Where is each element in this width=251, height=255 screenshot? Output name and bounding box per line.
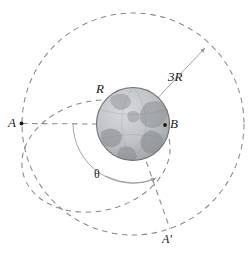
- point-marker-b: [163, 123, 167, 127]
- point-marker-a: [20, 122, 24, 126]
- label-radius-r: R: [96, 82, 104, 95]
- label-point-a: A: [8, 116, 16, 129]
- label-angle-theta: θ: [94, 168, 100, 180]
- transfer-direction-arrow: [105, 176, 156, 183]
- orbital-transfer-diagram: A B A' R 3R θ: [0, 0, 251, 255]
- diagram-canvas: [0, 0, 251, 255]
- label-radius-3r: 3R: [168, 70, 182, 83]
- earth-globe: [97, 88, 170, 165]
- label-point-b: B: [170, 117, 178, 130]
- label-point-a-prime: A': [162, 233, 172, 245]
